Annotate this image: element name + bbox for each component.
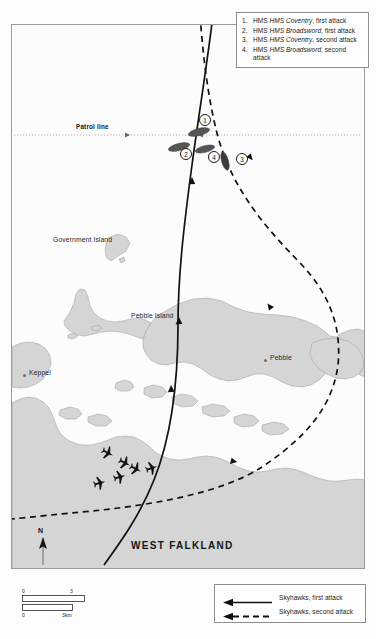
- map-page: Government Island Pebble Island Pebble K…: [0, 0, 376, 639]
- solid-arrow-icon: [223, 598, 273, 607]
- ship-callout-4[interactable]: 4: [208, 151, 220, 163]
- patrol-line-label: Patrol line: [76, 123, 109, 130]
- ship-legend-row: 3. HMS HMS Coventry, second attack: [240, 36, 364, 45]
- north-label: N: [38, 527, 43, 534]
- ship-detail-2: , first attack: [321, 27, 355, 34]
- ship-legend-text-4: HMS HMS Broadsword, second attack: [253, 45, 364, 63]
- ship-legend-text-3: HMS HMS Coventry, second attack: [253, 36, 364, 45]
- ship-legend-num-1: 1.: [240, 17, 253, 26]
- ship-legend-num-4: 4.: [240, 45, 253, 63]
- scale-bar-icon: [22, 595, 98, 617]
- dashed-arrow-icon: [223, 612, 273, 621]
- ship-legend-text-2: HMS HMS Broadsword, first attack: [253, 26, 364, 35]
- scale-km-start: 0: [22, 612, 25, 618]
- scale-km-end: 3km: [62, 612, 72, 618]
- settlement-dot-keppel: [23, 374, 26, 377]
- ship-callout-2[interactable]: 2: [180, 148, 192, 160]
- ship-detail-1: , first attack: [312, 17, 346, 24]
- symbol-legend-row-second: Skyhawks, second attack: [223, 607, 273, 620]
- label-pebble: Pebble: [270, 354, 292, 361]
- settlement-dot-pebble: [264, 359, 267, 362]
- ship-callout-1[interactable]: 1: [199, 114, 211, 126]
- ship-legend-row: 1. HMS HMS Coventry, first attack: [240, 17, 364, 26]
- label-west-falkland: WEST FALKLAND: [131, 540, 233, 551]
- symbol-legend-label-second: Skyhawks, second attack: [279, 608, 353, 615]
- ship-legend-box: 1. HMS HMS Coventry, first attack 2. HMS…: [236, 12, 369, 68]
- ship-legend-row: 2. HMS HMS Broadsword, first attack: [240, 26, 364, 35]
- ship-name-1: HMS Coventry: [269, 17, 312, 24]
- ship-name-3: HMS Coventry: [269, 36, 312, 43]
- scale-miles-start: 0: [22, 588, 25, 594]
- symbol-legend-row-first: Skyhawks, first attack: [223, 593, 273, 606]
- map-graphics: [12, 25, 365, 569]
- ship-legend-num-2: 2.: [240, 26, 253, 35]
- ship-detail-3: , second attack: [312, 36, 356, 43]
- ship-legend-num-3: 3.: [240, 36, 253, 45]
- ship-name-2: HMS Broadsword: [269, 27, 321, 34]
- ship-name-4: HMS Broadsword: [269, 46, 321, 53]
- ship-legend-row: 4. HMS HMS Broadsword, second attack: [240, 45, 364, 63]
- symbol-legend-box: Skyhawks, first attack Skyhawks, second …: [214, 584, 366, 623]
- symbol-legend-label-first: Skyhawks, first attack: [279, 594, 343, 601]
- north-arrow-icon: [36, 536, 50, 566]
- ship-legend-text-1: HMS HMS Coventry, first attack: [253, 17, 364, 26]
- label-keppel: Keppel: [29, 369, 51, 376]
- ship-callout-3[interactable]: 3: [236, 153, 248, 165]
- label-pebble-island: Pebble Island: [131, 312, 174, 319]
- label-government-island: Government Island: [53, 236, 112, 243]
- map-canvas: Government Island Pebble Island Pebble K…: [11, 24, 365, 569]
